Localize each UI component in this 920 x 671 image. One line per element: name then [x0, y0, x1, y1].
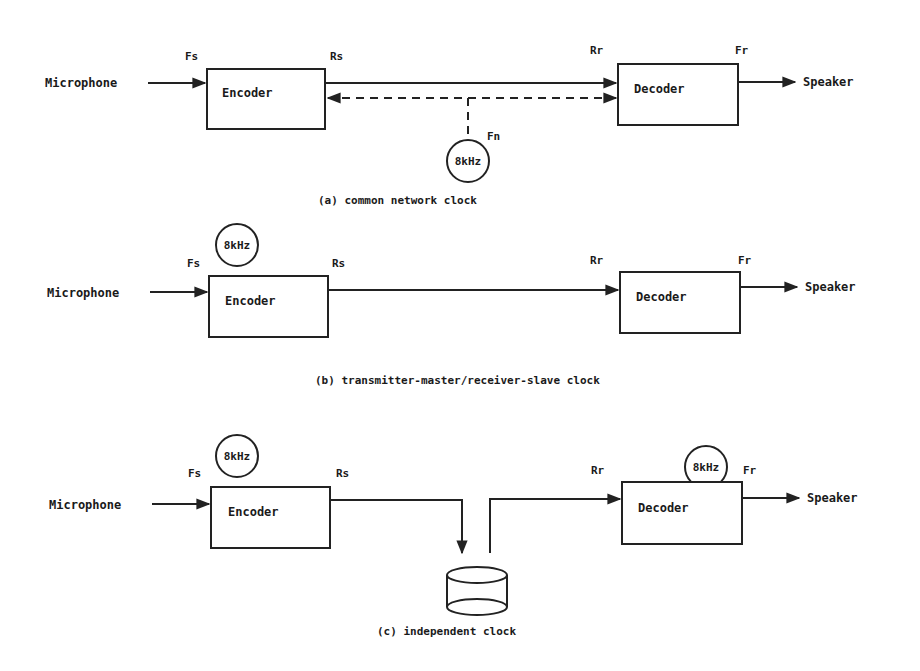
decoder-label: Decoder	[636, 290, 687, 304]
fs-label: Fs	[187, 257, 200, 270]
encoder-to-storage-line	[330, 500, 462, 553]
decoder-label: Decoder	[638, 501, 689, 515]
encoder-label: Encoder	[225, 294, 276, 308]
caption-a: (a) common network clock	[318, 194, 477, 207]
speaker-label: Speaker	[807, 491, 858, 505]
encoder-clock-label: 8kHz	[224, 450, 251, 463]
speaker-label: Speaker	[803, 75, 854, 89]
panel-c-independent-clock: 8kHz Microphone Fs Rs Encoder 8kHz Rr Fr…	[49, 435, 858, 638]
caption-c: (c) independent clock	[377, 625, 516, 638]
fs-label: Fs	[188, 467, 201, 480]
microphone-label: Microphone	[45, 76, 117, 90]
encoder-label: Encoder	[222, 86, 273, 100]
fr-label: Fr	[735, 44, 749, 57]
fr-label: Fr	[738, 254, 752, 267]
rr-label: Rr	[590, 254, 604, 267]
fn-label: Fn	[487, 130, 500, 143]
fr-label: Fr	[743, 464, 757, 477]
rr-label: Rr	[590, 44, 604, 57]
panel-b-master-slave-clock: 8kHz Microphone Fs Rs Encoder Rr Fr Deco…	[47, 224, 856, 387]
rr-label: Rr	[591, 464, 605, 477]
microphone-label: Microphone	[49, 498, 121, 512]
rs-label: Rs	[330, 50, 343, 63]
caption-b: (b) transmitter-master/receiver-slave cl…	[315, 374, 600, 387]
panel-a-common-network-clock: Microphone Fs Rs Encoder Fn 8kHz Rr Fr D…	[45, 44, 854, 207]
encoder-clock-label: 8kHz	[224, 239, 251, 252]
rs-label: Rs	[332, 257, 345, 270]
decoder-clock-label: 8kHz	[693, 461, 720, 474]
buffer-storage-icon	[447, 567, 507, 615]
fs-label: Fs	[185, 50, 198, 63]
clock-sync-diagram: Microphone Fs Rs Encoder Fn 8kHz Rr Fr D…	[0, 0, 920, 671]
encoder-label: Encoder	[228, 505, 279, 519]
clock-label: 8kHz	[455, 155, 482, 168]
speaker-label: Speaker	[805, 280, 856, 294]
microphone-label: Microphone	[47, 286, 119, 300]
decoder-label: Decoder	[634, 82, 685, 96]
rs-label: Rs	[336, 467, 349, 480]
storage-to-decoder-line	[490, 499, 620, 553]
